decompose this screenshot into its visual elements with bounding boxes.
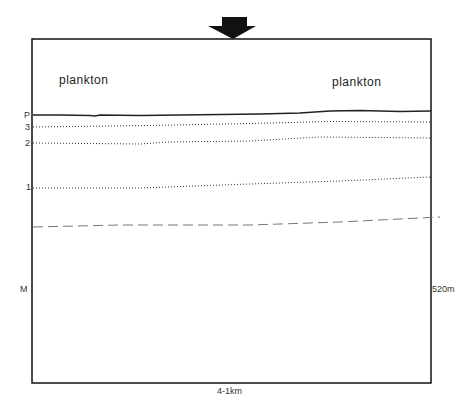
- layer-label-p: P: [24, 110, 30, 120]
- layer-label-2: 2: [25, 138, 30, 148]
- layer-line-m: [33, 217, 440, 227]
- layer-line-3: [33, 122, 431, 128]
- layer-label-1: 1: [26, 182, 31, 192]
- layer-label-3: 3: [25, 122, 30, 132]
- layer-line-2: [33, 137, 431, 144]
- plankton-label-right: plankton: [332, 75, 381, 89]
- layer-line-p: [33, 111, 431, 117]
- layer-label-m: M: [20, 284, 28, 294]
- profile-diagram: [0, 0, 470, 406]
- plankton-label-left: plankton: [59, 73, 108, 87]
- depth-label: 520m: [432, 284, 455, 294]
- layer-line-1: [33, 177, 431, 188]
- distance-label: 4-1km: [217, 386, 242, 396]
- down-arrow-icon: [208, 17, 256, 39]
- diagram-frame: [32, 39, 431, 383]
